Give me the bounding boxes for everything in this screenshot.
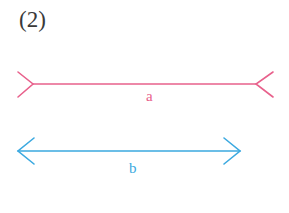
- muller-lyer-diagram: a b: [0, 0, 289, 213]
- segment-a-left-fin-icon: [18, 72, 33, 97]
- segment-a-right-fin-icon: [256, 72, 273, 97]
- segment-b-label: b: [129, 160, 137, 176]
- segment-a-label: a: [146, 88, 153, 104]
